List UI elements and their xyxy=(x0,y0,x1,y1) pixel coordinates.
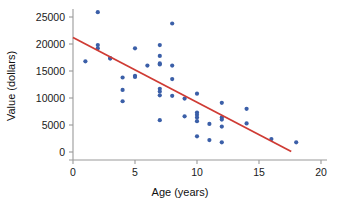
data-point xyxy=(294,140,298,144)
data-point xyxy=(170,21,174,25)
y-tick-label: 10000 xyxy=(36,92,65,104)
data-point-group xyxy=(83,10,298,144)
x-tick-group xyxy=(73,160,321,164)
data-point xyxy=(83,59,87,63)
x-tick-label: 15 xyxy=(253,166,265,178)
data-point xyxy=(158,89,162,93)
data-point xyxy=(195,92,199,96)
x-tick-label: 5 xyxy=(132,166,138,178)
y-tick-label: 15000 xyxy=(36,65,65,77)
data-point xyxy=(245,107,249,111)
data-point xyxy=(121,75,125,79)
scatter-plot-figure: 0500010000150002000025000 05101520 Age (… xyxy=(0,0,346,203)
data-point xyxy=(220,125,224,129)
x-axis-title: Age (years) xyxy=(152,186,209,198)
y-tick-label: 5000 xyxy=(42,119,66,131)
data-point xyxy=(195,115,199,119)
x-tick-label: 20 xyxy=(315,166,327,178)
data-point xyxy=(170,94,174,98)
data-point xyxy=(158,43,162,47)
x-tick-label-group: 05101520 xyxy=(70,166,327,178)
y-axis-title: Value (dollars) xyxy=(5,51,17,121)
data-point xyxy=(121,88,125,92)
plot-canvas: 0500010000150002000025000 05101520 Age (… xyxy=(0,0,346,203)
data-point xyxy=(195,134,199,138)
data-point xyxy=(170,64,174,68)
data-point xyxy=(121,99,125,103)
data-point xyxy=(245,121,249,125)
data-point xyxy=(195,119,199,123)
x-tick-label: 0 xyxy=(70,166,76,178)
data-point xyxy=(207,138,211,142)
data-point xyxy=(96,10,100,14)
data-point xyxy=(158,62,162,66)
y-tick-label-group: 0500010000150002000025000 xyxy=(36,11,65,158)
data-point xyxy=(145,64,149,68)
y-tick-label: 20000 xyxy=(36,38,65,50)
y-axis: 0500010000150002000025000 xyxy=(36,9,73,160)
y-tick-label: 0 xyxy=(59,146,65,158)
data-point xyxy=(220,101,224,105)
x-axis: 05101520 xyxy=(69,160,327,178)
data-point xyxy=(170,77,174,81)
y-tick-group xyxy=(69,17,73,152)
data-point xyxy=(158,118,162,122)
data-point xyxy=(158,54,162,58)
data-point xyxy=(133,75,137,79)
data-point xyxy=(158,93,162,97)
data-point xyxy=(220,118,224,122)
data-point xyxy=(183,114,187,118)
data-point xyxy=(207,122,211,126)
trend-line xyxy=(73,38,291,152)
data-point xyxy=(133,46,137,50)
y-tick-label: 25000 xyxy=(36,11,65,23)
data-point xyxy=(220,140,224,144)
x-tick-label: 10 xyxy=(191,166,203,178)
